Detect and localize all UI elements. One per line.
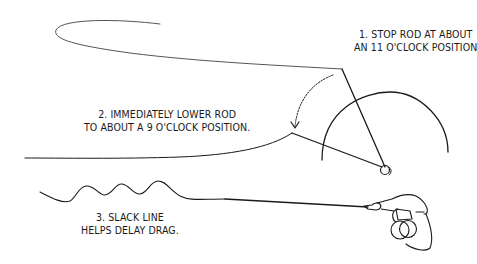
slack-wavy-line xyxy=(40,181,225,202)
step-2-label: 2. IMMEDIATELY LOWER ROD TO ABOUT A 9 O'… xyxy=(84,108,250,134)
step-2-line-1: 2. IMMEDIATELY LOWER ROD xyxy=(84,108,250,121)
step-3-label: 3. SLACK LINE HELPS DELAY DRAG. xyxy=(81,211,179,237)
fly-line-to-hand xyxy=(225,199,368,207)
step-2-line-2: TO ABOUT A 9 O'CLOCK POSITION. xyxy=(84,121,250,134)
step-1-label: 1. STOP ROD AT ABOUT AN 11 O'CLOCK POSIT… xyxy=(354,28,477,54)
rod-11-oclock xyxy=(342,69,385,167)
rod-9-oclock xyxy=(292,133,382,167)
fly-line-loop xyxy=(56,20,342,69)
hand-icon xyxy=(364,195,432,250)
step-3-line-1: 3. SLACK LINE xyxy=(81,211,179,224)
step-1-line-2: AN 11 O'CLOCK POSITION xyxy=(354,41,477,54)
clock-arc xyxy=(322,92,448,160)
fly-line-lowered xyxy=(25,133,292,158)
dotted-lowering-arrow xyxy=(295,75,333,126)
step-1-line-1: 1. STOP ROD AT ABOUT xyxy=(354,28,477,41)
step-3-line-2: HELPS DELAY DRAG. xyxy=(81,224,179,237)
